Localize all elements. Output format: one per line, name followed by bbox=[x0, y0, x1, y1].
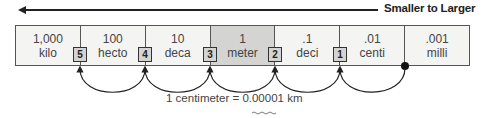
squiggle-underline bbox=[252, 112, 276, 114]
conversion-caption: 1 centimeter = 0.00001 km bbox=[166, 92, 302, 104]
